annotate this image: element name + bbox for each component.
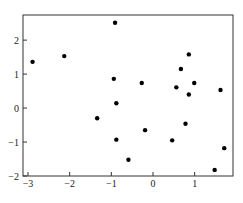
- data-point: [174, 85, 178, 89]
- data-point: [183, 121, 187, 125]
- x-tick-label: 0: [151, 178, 156, 189]
- data-point: [179, 67, 183, 71]
- x-tick-label: 1: [192, 178, 197, 189]
- data-point: [126, 157, 130, 161]
- data-point: [187, 52, 191, 56]
- data-point: [222, 146, 226, 150]
- data-point: [140, 81, 144, 85]
- data-point: [170, 138, 174, 142]
- y-tick-label: 0: [14, 103, 19, 114]
- data-point: [114, 101, 118, 105]
- y-axis: −2−1012: [8, 35, 27, 182]
- y-tick-label: 2: [14, 35, 19, 46]
- data-points: [30, 21, 226, 172]
- data-point: [212, 168, 216, 172]
- x-tick-label: −2: [64, 178, 75, 189]
- x-tick-label: −3: [23, 178, 34, 189]
- data-point: [112, 77, 116, 81]
- plot-frame: [23, 15, 233, 176]
- data-point: [113, 21, 117, 25]
- data-point: [114, 137, 118, 141]
- data-point: [218, 88, 222, 92]
- data-point: [187, 92, 191, 96]
- data-point: [30, 60, 34, 64]
- x-axis: −3−2−101: [23, 172, 197, 189]
- y-tick-label: −2: [8, 171, 19, 182]
- scatter-chart: −3−2−101 −2−1012: [0, 0, 243, 203]
- data-point: [143, 128, 147, 132]
- data-point: [62, 54, 66, 58]
- x-tick-label: −1: [106, 178, 117, 189]
- data-point: [192, 81, 196, 85]
- data-point: [95, 116, 99, 120]
- y-tick-label: −1: [8, 137, 19, 148]
- y-tick-label: 1: [14, 69, 19, 80]
